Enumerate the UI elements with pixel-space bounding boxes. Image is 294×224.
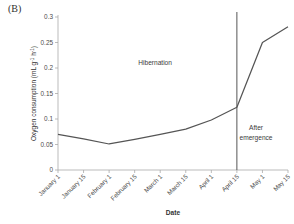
y-axis-tick-label: 0.25 [41,39,54,46]
y-axis-tick-label: 0.1 [44,115,53,122]
chart-annotation-2: emergence [240,134,273,142]
x-axis-tick-label: April 15 [220,172,241,193]
y-axis-tick-label: 0.05 [41,141,54,148]
x-axis: January 1January 15February 1February 15… [37,170,293,202]
y-axis-tick-label: 0.3 [44,13,53,20]
x-axis-tick-label: March 1 [142,172,163,193]
y-axis-title-group: Oxygen consumption (mL g-1 h-1) [30,46,38,141]
x-axis-tick-label: May 1 [249,172,267,190]
x-axis-title: Date [166,209,181,216]
figure-panel-b: (B) 00.050.10.150.20.250.3 January 1Janu… [0,0,294,224]
x-axis-tick-label: January 1 [37,172,63,198]
x-axis-tick-label: March 15 [165,172,189,196]
chart-canvas: 00.050.10.150.20.250.3 January 1January … [0,0,294,224]
chart-annotation-0: Hibernation [138,59,172,66]
x-axis-tick-label: April 1 [197,172,216,191]
x-axis-tick-label: May 15 [272,172,293,193]
chart-annotation-1: After [249,124,264,131]
x-axis-title-group: Date [166,209,181,216]
y-axis-title: Oxygen consumption (mL g-1 h-1) [30,46,38,141]
oxygen-consumption-line-chart: 00.050.10.150.20.250.3 January 1January … [0,0,294,224]
y-axis-tick-label: 0.2 [44,64,53,71]
y-axis-tick-label: 0 [49,166,53,173]
x-axis-tick-label: February 15 [109,172,139,202]
y-axis-tick-label: 0.15 [41,90,54,97]
annotations-group: HibernationAfteremergence [138,59,273,142]
y-axis: 00.050.10.150.20.250.3 [41,13,58,173]
x-axis-tick-label: January 15 [60,172,88,200]
